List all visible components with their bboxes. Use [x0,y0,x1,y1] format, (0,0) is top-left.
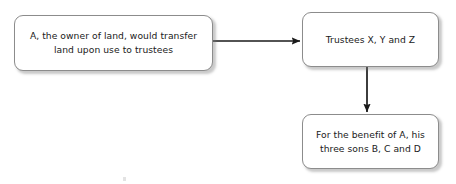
node-transferor-label: A, the owner of land, would transfer lan… [23,29,204,57]
scan-artifact-speck [123,177,126,181]
node-trustees: Trustees X, Y and Z [302,12,439,67]
node-beneficiaries-label: For the benefit of A, his three sons B, … [309,128,432,156]
flow-diagram: A, the owner of land, would transfer lan… [0,0,456,184]
node-beneficiaries: For the benefit of A, his three sons B, … [302,114,439,169]
node-transferor: A, the owner of land, would transfer lan… [14,15,213,71]
node-trustees-label: Trustees X, Y and Z [319,33,422,47]
